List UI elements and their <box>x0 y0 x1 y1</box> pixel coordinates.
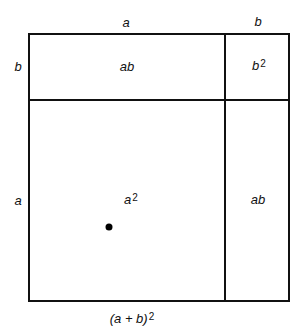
left-label-a: a <box>14 194 21 208</box>
a-squared-base: a <box>124 192 131 207</box>
outer-bottom-edge <box>28 300 290 302</box>
region-bottom-right-ab: ab <box>251 193 265 207</box>
a-squared-exponent: 2 <box>132 192 138 203</box>
region-top-left-ab: ab <box>120 60 134 74</box>
b-squared-base: b <box>252 58 259 73</box>
caption-exponent: 2 <box>149 311 155 322</box>
left-label-b: b <box>14 60 21 74</box>
outer-left-edge <box>28 33 30 302</box>
b-squared-exponent: 2 <box>260 58 266 69</box>
dot-marker <box>106 224 113 231</box>
top-label-a: a <box>122 16 129 30</box>
region-bottom-left-a-squared: a2 <box>124 193 138 208</box>
outer-top-edge <box>28 33 290 35</box>
vertical-divider <box>224 33 226 302</box>
caption-a-plus-b-squared: (a + b)2 <box>110 312 155 327</box>
top-label-b: b <box>254 15 261 29</box>
region-top-right-b-squared: b2 <box>252 59 266 74</box>
outer-right-edge <box>288 33 290 302</box>
caption-base: (a + b) <box>110 311 148 326</box>
horizontal-divider <box>28 99 290 101</box>
